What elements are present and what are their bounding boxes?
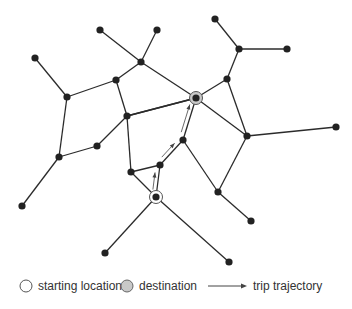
edge	[67, 80, 116, 97]
network-node	[93, 142, 100, 149]
network-node	[179, 136, 186, 143]
network-node	[332, 123, 339, 130]
network-node	[225, 258, 232, 265]
edge	[141, 30, 157, 62]
edge	[183, 140, 218, 192]
edge	[127, 98, 196, 116]
road-network-diagram	[0, 0, 352, 270]
edge	[215, 19, 239, 49]
network-nodes	[18, 15, 339, 265]
network-node	[152, 193, 159, 200]
network-node	[101, 249, 108, 256]
edge	[218, 192, 251, 221]
legend-trajectory-label: trip trajectory	[253, 279, 322, 293]
legend-destination-label: destination	[139, 279, 197, 293]
network-node	[153, 26, 160, 33]
network-node	[214, 188, 221, 195]
edge	[35, 58, 67, 97]
network-node	[137, 58, 144, 65]
legend-destination: destination	[120, 279, 197, 293]
network-node	[223, 75, 230, 82]
edge	[127, 116, 131, 172]
filled-gray-circle-icon	[120, 279, 134, 293]
network-node	[247, 217, 254, 224]
edge	[59, 97, 67, 157]
network-node	[192, 94, 199, 101]
edge	[105, 197, 156, 253]
open-circle-icon	[19, 279, 33, 293]
edge	[131, 165, 160, 172]
edge	[196, 98, 247, 136]
edge	[141, 62, 196, 98]
network-node	[96, 26, 103, 33]
edge	[116, 80, 127, 116]
edge	[218, 136, 247, 192]
network-edges	[22, 19, 336, 262]
edge	[97, 116, 127, 146]
network-node	[156, 161, 163, 168]
arrow-right-icon	[208, 281, 248, 291]
edge	[227, 49, 239, 79]
network-node	[31, 54, 38, 61]
arrowhead-icon	[152, 172, 156, 177]
arrowhead-icon	[186, 104, 190, 109]
edge	[116, 62, 141, 80]
edge	[227, 79, 247, 136]
legend-start-label: starting location	[38, 279, 122, 293]
network-node	[18, 202, 25, 209]
network-node	[63, 93, 70, 100]
edge	[59, 146, 97, 157]
edge	[156, 197, 229, 262]
network-node	[123, 112, 130, 119]
edge	[160, 140, 183, 165]
network-node	[243, 132, 250, 139]
legend-trip-trajectory: trip trajectory	[208, 279, 322, 293]
network-node	[211, 15, 218, 22]
edge	[22, 157, 59, 206]
edge	[247, 127, 336, 136]
edge	[100, 30, 141, 62]
network-node	[127, 168, 134, 175]
network-node	[283, 45, 290, 52]
network-node	[112, 76, 119, 83]
network-node	[55, 153, 62, 160]
network-node	[235, 45, 242, 52]
legend-starting-location: starting location	[19, 279, 122, 293]
legend: starting location destination trip traje…	[0, 279, 352, 301]
